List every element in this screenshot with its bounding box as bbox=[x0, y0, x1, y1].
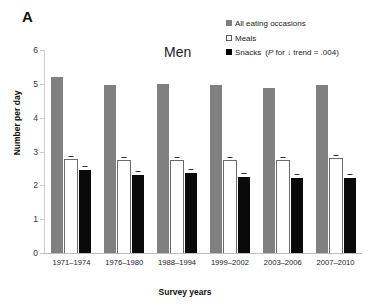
bar-all-eating-occasions[interactable] bbox=[157, 84, 169, 253]
x-axis-line bbox=[44, 253, 362, 254]
error-bar bbox=[294, 174, 299, 175]
legend-swatch-all-eating-occasions bbox=[226, 20, 232, 26]
y-tick-label-2: 2 bbox=[22, 180, 38, 190]
bar-group bbox=[203, 50, 256, 253]
x-tick-label: 1976–1980 bbox=[98, 258, 151, 267]
panel-letter: A bbox=[22, 8, 33, 25]
legend-label-all-eating-occasions: All eating occasions bbox=[235, 18, 306, 31]
x-tick-label: 1971–1974 bbox=[45, 258, 98, 267]
y-tick-4 bbox=[40, 118, 44, 119]
bar-all-eating-occasions[interactable] bbox=[104, 85, 116, 253]
bar-all-eating-occasions[interactable] bbox=[51, 77, 63, 253]
bar-meals[interactable] bbox=[223, 160, 237, 253]
x-tick-label: 2007–2010 bbox=[309, 258, 362, 267]
error-bar bbox=[333, 155, 338, 156]
bar-group bbox=[45, 50, 98, 253]
bar-snacks[interactable] bbox=[185, 173, 197, 253]
y-axis-title: Number per day bbox=[12, 73, 22, 173]
error-bar bbox=[241, 173, 246, 174]
bar-snacks[interactable] bbox=[79, 170, 91, 253]
y-tick-5 bbox=[40, 84, 44, 85]
y-tick-1 bbox=[40, 219, 44, 220]
x-tick-label: 1988–1994 bbox=[151, 258, 204, 267]
x-tick-label: 2003–2006 bbox=[256, 258, 309, 267]
legend-label-meals: Meals bbox=[235, 33, 256, 46]
bar-group bbox=[151, 50, 204, 253]
error-bar bbox=[175, 157, 180, 158]
error-bar bbox=[227, 157, 232, 158]
x-axis-title: Survey years bbox=[0, 287, 370, 297]
y-tick-label-3: 3 bbox=[22, 147, 38, 157]
bar-snacks[interactable] bbox=[344, 178, 356, 253]
x-tick-label: 1999–2002 bbox=[203, 258, 256, 267]
bar-snacks[interactable] bbox=[132, 175, 144, 253]
y-tick-0 bbox=[40, 253, 44, 254]
chart-panel: A Men All eating occasions Meals Snacks … bbox=[0, 0, 370, 306]
y-tick-label-0: 0 bbox=[22, 248, 38, 258]
y-tick-3 bbox=[40, 152, 44, 153]
bar-meals[interactable] bbox=[64, 159, 78, 253]
legend-swatch-meals bbox=[226, 35, 232, 41]
bar-meals[interactable] bbox=[276, 160, 290, 253]
y-tick-label-4: 4 bbox=[22, 113, 38, 123]
y-axis-tick-labels: 0123456 bbox=[22, 44, 38, 258]
error-bar bbox=[189, 169, 194, 170]
bar-groups bbox=[45, 50, 362, 253]
bar-all-eating-occasions[interactable] bbox=[316, 85, 328, 253]
error-bar bbox=[136, 171, 141, 172]
bar-meals[interactable] bbox=[170, 160, 184, 253]
bar-all-eating-occasions[interactable] bbox=[263, 88, 275, 253]
bar-group bbox=[309, 50, 362, 253]
y-tick-label-5: 5 bbox=[22, 79, 38, 89]
error-bar bbox=[280, 157, 285, 158]
x-axis-tick-labels: 1971–19741976–19801988–19941999–20022003… bbox=[45, 258, 362, 267]
error-bar bbox=[83, 166, 88, 167]
bar-group bbox=[256, 50, 309, 253]
error-bar bbox=[69, 156, 74, 157]
bar-group bbox=[98, 50, 151, 253]
y-tick-label-1: 1 bbox=[22, 214, 38, 224]
error-bar bbox=[122, 157, 127, 158]
bar-snacks[interactable] bbox=[291, 178, 303, 253]
y-tick-2 bbox=[40, 185, 44, 186]
y-tick-label-6: 6 bbox=[22, 45, 38, 55]
bar-all-eating-occasions[interactable] bbox=[210, 85, 222, 253]
legend-item-meals: Meals bbox=[226, 33, 339, 46]
error-bar bbox=[347, 174, 352, 175]
legend-item-all-eating-occasions: All eating occasions bbox=[226, 18, 339, 31]
bar-meals[interactable] bbox=[329, 158, 343, 253]
y-tick-6 bbox=[40, 50, 44, 51]
bar-snacks[interactable] bbox=[238, 177, 250, 253]
bar-meals[interactable] bbox=[117, 160, 131, 253]
